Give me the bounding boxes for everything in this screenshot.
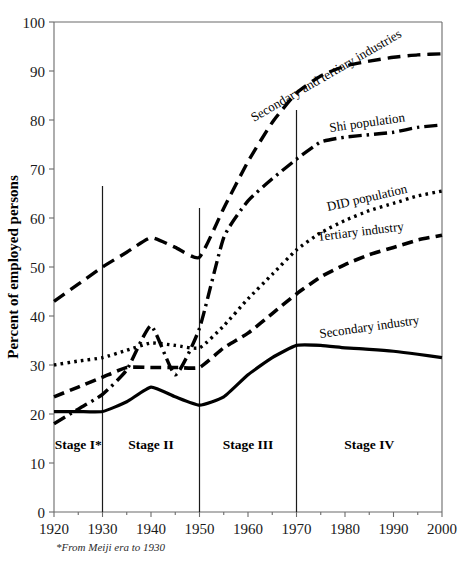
y-tick-label: 80: [30, 113, 45, 129]
y-tick-label: 20: [30, 407, 45, 423]
x-tick-label: 1980: [330, 521, 360, 537]
x-tick-label: 1970: [282, 521, 312, 537]
chart-svg: 0102030405060708090100 19201930194019501…: [0, 0, 467, 569]
y-tick-label: 100: [23, 15, 46, 31]
stage-label-4: Stage IV: [344, 437, 394, 452]
y-tick-label: 50: [30, 260, 45, 276]
y-tick-label: 90: [30, 64, 45, 80]
y-tick-label: 10: [30, 456, 45, 472]
y-tick-label: 70: [30, 162, 45, 178]
x-tick-label: 1930: [88, 521, 118, 537]
x-tick-label: 1960: [233, 521, 263, 537]
x-tick-label: 2000: [427, 521, 457, 537]
y-axis-title: Percent of employed persons: [5, 175, 21, 359]
x-tick-label: 1920: [39, 521, 69, 537]
y-tick-label: 60: [30, 211, 45, 227]
stage-label-3: Stage III: [223, 437, 274, 452]
stage-label-2: Stage II: [128, 437, 173, 452]
x-tick-label: 1940: [136, 521, 166, 537]
footnote-text: *From Meiji era to 1930: [56, 541, 165, 553]
chart-figure: 0102030405060708090100 19201930194019501…: [0, 0, 467, 569]
x-tick-label: 1950: [185, 521, 215, 537]
y-tick-label: 0: [38, 505, 46, 521]
stage-label-1: Stage I*: [55, 437, 102, 452]
y-tick-label: 30: [30, 358, 45, 374]
y-tick-label: 40: [30, 309, 45, 325]
x-tick-label: 1990: [379, 521, 409, 537]
chart-background: [0, 0, 467, 569]
